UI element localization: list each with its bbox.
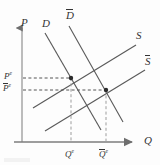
overbar-wrap-dbar: D <box>66 10 74 21</box>
overbar-qty-high <box>99 149 104 150</box>
overbar-wrap-price-low: P <box>3 84 9 93</box>
demand-curve-label: D <box>42 18 50 29</box>
supply-shifted-curve-label-text: S <box>145 55 151 67</box>
demand-curve-dbar <box>69 26 123 122</box>
quantity-tick-low: Qe <box>65 149 74 159</box>
quantity-tick-high: Q e <box>99 149 108 159</box>
supply-demand-figure: P Q D D S S Pe P e Qe Q e <box>0 0 160 165</box>
price-axis-label: P <box>21 17 28 28</box>
overbar-sbar <box>145 55 150 56</box>
demand-shifted-curve-label-text: D <box>66 9 74 21</box>
equilibrium-point-new <box>104 88 108 92</box>
quantity-tick-low-superscript: e <box>72 148 74 154</box>
equilibrium-point-original <box>69 76 73 80</box>
supply-curve-sbar <box>45 70 145 131</box>
demand-shifted-curve-label: D <box>66 10 74 21</box>
overbar-wrap-sbar: S <box>145 56 151 67</box>
overbar-price-low <box>3 83 8 84</box>
quantity-tick-high-base: Q <box>99 149 106 159</box>
supply-curve-label: S <box>136 30 142 41</box>
demand-curve-d <box>45 33 101 130</box>
supply-shifted-curve-label: S <box>145 56 151 67</box>
price-tick-high: Pe <box>4 71 12 81</box>
price-tick-high-superscript: e <box>10 70 12 76</box>
overbar-dbar <box>66 9 73 10</box>
price-tick-low-base: P <box>3 83 9 93</box>
scan-artifact <box>4 158 30 162</box>
price-tick-low: P e <box>3 83 11 93</box>
overbar-wrap-qty-high: Q <box>99 150 106 159</box>
quantity-axis-label: Q <box>144 135 152 146</box>
